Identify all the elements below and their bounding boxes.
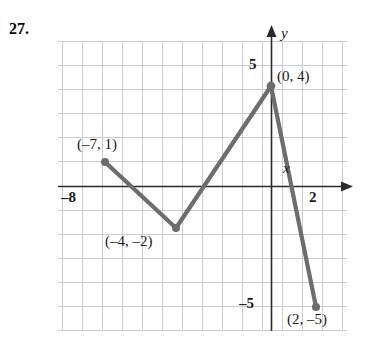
x-tick-label-2: 2 [309, 189, 317, 206]
x-tick-label-neg8: –8 [61, 189, 76, 206]
y-axis-arrowhead [267, 25, 277, 37]
y-tick-label-neg5: –5 [239, 295, 254, 312]
data-point-marker-c [267, 82, 276, 91]
data-polyline [105, 86, 316, 307]
data-point-marker-d [312, 303, 320, 311]
point-label-neg7-1: (–7, 1) [77, 136, 117, 153]
x-axis-arrowhead [341, 182, 353, 192]
data-point-markers [101, 82, 320, 311]
data-point-marker-b [172, 224, 180, 232]
point-label-neg4-neg2: (–4, –2) [105, 233, 153, 250]
graph-svg [0, 0, 371, 355]
coordinate-plane-figure: x y 5 –5 –8 2 (–7, 1) (–4, –2) (0, 4) (2… [0, 0, 371, 355]
point-label-2-neg5: (2, –5) [287, 311, 327, 328]
x-axis-label: x [283, 160, 290, 177]
y-axis-label: y [281, 25, 288, 42]
point-label-0-4: (0, 4) [277, 68, 310, 85]
data-point-marker-a [101, 158, 109, 166]
y-tick-label-5: 5 [249, 56, 257, 73]
